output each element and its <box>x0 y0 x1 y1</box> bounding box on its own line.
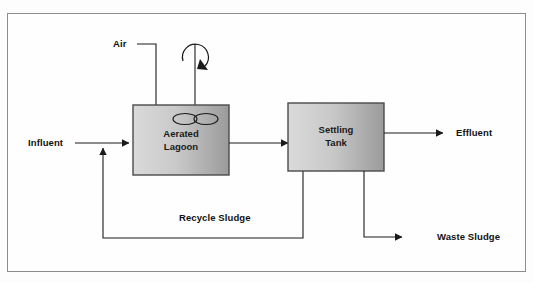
aerated-lagoon-label-line1: Aerated <box>133 127 229 140</box>
diagram-canvas: Influent Air Effluent Recycle Sludge Was… <box>0 0 534 283</box>
aerated-lagoon-label-line2: Lagoon <box>133 140 229 153</box>
waste-sludge-line <box>364 171 402 237</box>
settling-tank-label: Settling Tank <box>288 123 384 149</box>
recycle-sludge-label: Recycle Sludge <box>179 212 251 223</box>
settling-tank-label-line2: Tank <box>288 136 384 149</box>
settling-tank-label-line1: Settling <box>288 123 384 136</box>
waste-sludge-label: Waste Sludge <box>437 231 500 242</box>
influent-label: Influent <box>28 137 63 148</box>
aerated-lagoon-label: Aerated Lagoon <box>133 127 229 153</box>
air-label: Air <box>113 38 127 49</box>
effluent-label: Effluent <box>456 127 492 138</box>
